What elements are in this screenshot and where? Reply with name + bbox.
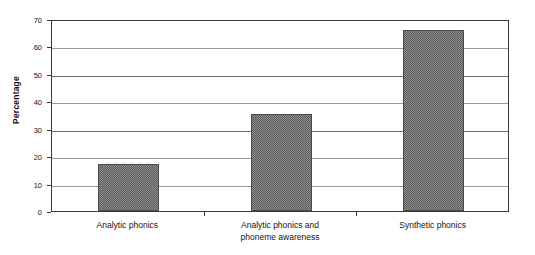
y-tick-label: 50 bbox=[2, 70, 42, 79]
x-tick-mark bbox=[204, 212, 205, 216]
y-tick-label: 60 bbox=[2, 43, 42, 52]
x-tick-mark bbox=[356, 212, 357, 216]
x-category-label: Analytic phonics and phoneme awareness bbox=[200, 220, 360, 243]
x-category-label: Synthetic phonics bbox=[353, 220, 513, 232]
y-tick-label: 70 bbox=[2, 16, 42, 25]
x-category-label: Analytic phonics bbox=[47, 220, 207, 232]
y-tick-label: 10 bbox=[2, 180, 42, 189]
y-tick-label: 20 bbox=[2, 153, 42, 162]
y-tick-label: 0 bbox=[2, 208, 42, 217]
bar-chart: Percentage 010203040506070 Analytic phon… bbox=[0, 0, 535, 255]
y-tick-label: 40 bbox=[2, 98, 42, 107]
y-tick-mark bbox=[47, 212, 51, 213]
bar bbox=[251, 114, 312, 211]
bar bbox=[403, 30, 464, 211]
bar bbox=[98, 164, 159, 211]
y-tick-label: 30 bbox=[2, 125, 42, 134]
plot-area bbox=[51, 20, 509, 212]
